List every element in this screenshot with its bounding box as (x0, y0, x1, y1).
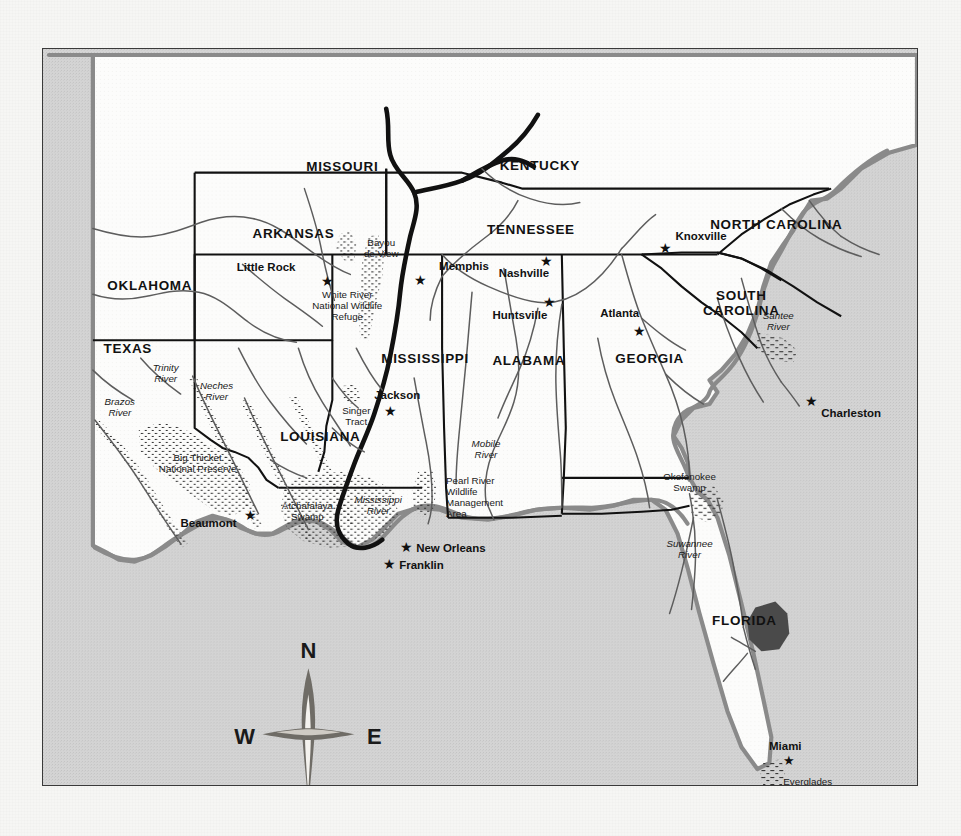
star-icon: ★ (783, 753, 795, 768)
city-label: Miami (769, 740, 802, 752)
star-icon: ★ (384, 403, 397, 419)
state-label-kentucky: KENTUCKY (500, 158, 580, 173)
state-label-mississippi: MISSISSIPPI (381, 351, 469, 366)
star-icon: ★ (414, 272, 427, 288)
city-new-orleans: New Orleans ★ (400, 539, 486, 555)
state-label-arkansas: ARKANSAS (253, 226, 335, 241)
city-label: Franklin (399, 559, 444, 571)
star-icon: ★ (805, 393, 818, 409)
southeast-us-map: .state-lbl{font-family:"Liberation Sans"… (43, 49, 917, 785)
state-label-north-carolina: NORTH CAROLINA (710, 217, 842, 232)
state-label-missouri: MISSOURI (306, 159, 378, 174)
city-label: Huntsville (492, 309, 547, 321)
compass-east-label: E (367, 724, 382, 749)
state-label-alabama: ALABAMA (492, 353, 565, 368)
city-label: Memphis (439, 260, 489, 272)
star-icon: ★ (659, 240, 672, 256)
compass-west-label: W (234, 724, 255, 749)
city-franklin: Franklin ★ (383, 556, 444, 572)
state-label-louisiana: LOUISIANA (280, 429, 360, 444)
star-icon: ★ (540, 253, 553, 269)
feature-label-santee-river: SanteeRiver (763, 310, 795, 332)
city-label: Jackson (374, 389, 420, 401)
state-label-oklahoma: OKLAHOMA (107, 278, 192, 293)
star-icon: ★ (633, 323, 646, 339)
city-label: Beaumont (181, 517, 237, 529)
city-label: Little Rock (237, 261, 296, 273)
feature-label-bayou-de-view: Bayoude View (364, 237, 400, 259)
state-label-florida: FLORIDA (712, 613, 777, 628)
feature-label-trinity-river: TrinityRiver (153, 362, 180, 384)
star-icon: ★ (383, 556, 396, 572)
city-label: Knoxville (676, 230, 727, 242)
city-label: Atlanta (600, 307, 639, 319)
feature-label-brazos-river: BrazosRiver (105, 396, 136, 418)
feature-label-singer-tract: SingerTract (342, 405, 371, 427)
state-label-texas: TEXAS (104, 341, 152, 356)
star-icon: ★ (321, 273, 334, 289)
map-page: .state-lbl{font-family:"Liberation Sans"… (0, 0, 961, 836)
star-icon: ★ (244, 507, 257, 523)
star-icon: ★ (543, 294, 556, 310)
city-label: New Orleans (416, 542, 485, 554)
state-label-tennessee: TENNESSEE (487, 222, 575, 237)
state-label-georgia: GEORGIA (615, 351, 683, 366)
map-frame: .state-lbl{font-family:"Liberation Sans"… (42, 48, 918, 786)
feature-label-mobile-river: MobileRiver (472, 438, 501, 460)
city-label: Charleston (821, 407, 881, 419)
compass-north-label: N (300, 638, 316, 663)
star-icon: ★ (400, 539, 413, 555)
